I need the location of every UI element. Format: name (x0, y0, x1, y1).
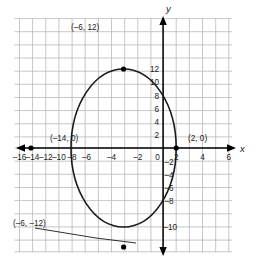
x-tick-minus8: –8 (68, 153, 78, 162)
point-label-bottom: (–6, –12) (13, 219, 46, 228)
x-tick-minus16: –16 (13, 153, 27, 162)
y-tick-minus4: –4 (165, 171, 175, 180)
y-tick-6: 6 (154, 105, 159, 114)
y-tick-labels: 12 10 8 6 4 2 (150, 65, 160, 140)
x-tick-minus2: –2 (133, 153, 143, 162)
point-label-top: (–6, 12) (71, 23, 99, 32)
x-tick-4: 4 (200, 153, 205, 162)
y-tick-minus2: –2 (165, 158, 175, 167)
point-marker-right (174, 145, 179, 150)
y-tick-8: 8 (154, 92, 159, 101)
point-marker-left (28, 145, 33, 150)
x-axis-label: x (239, 143, 246, 154)
y-tick-minus8: –8 (165, 197, 175, 206)
y-axis-label: y (165, 3, 172, 14)
coordinate-plane: y x –16 –14 –12 –10 –8 –6 –4 –2 0 2 4 6 … (0, 0, 256, 269)
point-marker-top (121, 66, 126, 71)
x-tick-labels: –16 –14 –12 –10 –8 –6 –4 –2 0 2 4 6 (13, 153, 232, 162)
x-axis-arrow-left (16, 144, 25, 151)
y-tick-2: 2 (154, 131, 159, 140)
x-tick-minus12: –12 (39, 153, 53, 162)
point-marker-bottom (121, 244, 126, 249)
x-tick-minus10: –10 (52, 153, 66, 162)
point-label-left: (–14, 0) (50, 134, 78, 143)
x-axis-arrow-right (227, 144, 236, 151)
y-tick-4: 4 (154, 118, 159, 127)
x-tick-minus14: –14 (26, 153, 40, 162)
x-tick-zero: 0 (155, 153, 160, 162)
x-tick-2: 2 (174, 153, 179, 162)
y-axis-arrow-up (159, 16, 166, 25)
x-tick-minus6: –6 (82, 153, 92, 162)
y-tick-10: 10 (150, 78, 160, 87)
y-tick-minus6: –6 (165, 184, 175, 193)
point-label-right: (2, 0) (188, 134, 207, 143)
graph-figure: y x –16 –14 –12 –10 –8 –6 –4 –2 0 2 4 6 … (0, 0, 256, 269)
y-tick-12: 12 (150, 65, 160, 74)
x-tick-minus4: –4 (107, 153, 117, 162)
x-tick-6: 6 (227, 153, 232, 162)
y-tick-minus10: –10 (164, 223, 178, 232)
